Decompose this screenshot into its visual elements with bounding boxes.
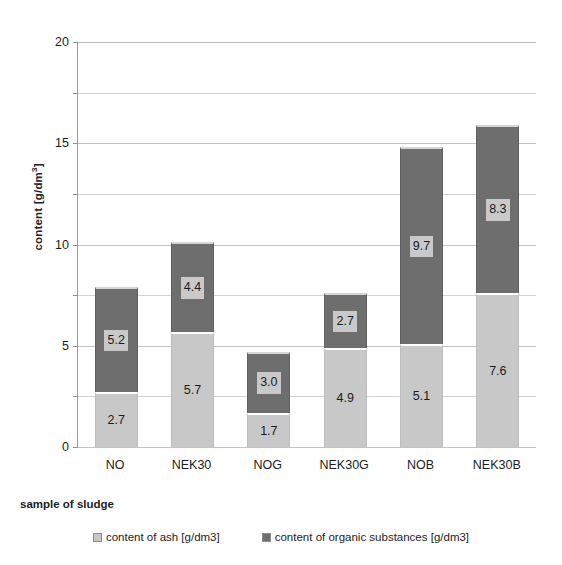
bar-value-label-ash-nob: 5.1: [413, 390, 430, 403]
chart-legend: content of ash [g/dm3]content of organic…: [0, 531, 562, 543]
bar-segment-organic-nob[interactable]: 9.7: [400, 147, 443, 343]
x-axis-title: sample of sludge: [20, 498, 114, 510]
bar-value-label-organic-nob: 9.7: [410, 236, 433, 258]
y-tick-label-0: 0: [62, 440, 69, 454]
y-tick-label-15: 15: [55, 136, 69, 150]
bar-value-label-ash-nog: 1.7: [260, 425, 277, 438]
bar-group-nek30[interactable]: 5.74.4: [171, 42, 214, 447]
bar-value-label-ash-nek30: 5.7: [184, 384, 201, 397]
y-axis-title-exponent: 3: [30, 167, 39, 172]
y-axis-title-bracket: ]: [32, 163, 44, 167]
bar-value-label-ash-nek30g: 4.9: [336, 392, 353, 405]
bar-group-nob[interactable]: 5.19.7: [400, 42, 443, 447]
legend-swatch-icon-ash: [93, 533, 102, 542]
bar-value-label-ash-no: 2.7: [107, 414, 124, 427]
bar-value-label-organic-nog: 3.0: [257, 372, 280, 394]
legend-label-ash: content of ash [g/dm3]: [106, 531, 220, 543]
plot-area: 05101520 2.75.25.74.41.73.04.92.75.19.77…: [77, 42, 536, 448]
y-tick-label-10: 10: [55, 238, 69, 252]
legend-item-organic[interactable]: content of organic substances [g/dm3]: [262, 531, 469, 543]
bar-segment-organic-no[interactable]: 5.2: [95, 287, 138, 392]
bar-segment-ash-no[interactable]: 2.7: [95, 392, 138, 447]
bar-value-label-organic-nek30: 4.4: [181, 277, 204, 299]
bar-value-label-ash-nek30b: 7.6: [489, 365, 506, 378]
bar-segment-ash-nek30g[interactable]: 4.9: [324, 348, 367, 447]
legend-label-organic: content of organic substances [g/dm3]: [275, 531, 469, 543]
x-tick-label-nek30b: NEK30B: [447, 458, 547, 472]
y-tick-label-20: 20: [55, 35, 69, 49]
bar-value-label-organic-nek30g: 2.7: [333, 311, 356, 333]
y-axis-title: content [g/dm3]: [30, 107, 44, 307]
bars-layer: 2.75.25.74.41.73.04.92.75.19.77.68.3: [78, 42, 536, 447]
y-tick-label-5: 5: [62, 339, 69, 353]
bar-group-nek30g[interactable]: 4.92.7: [324, 42, 367, 447]
bar-segment-ash-nob[interactable]: 5.1: [400, 344, 443, 447]
bar-group-nog[interactable]: 1.73.0: [247, 42, 290, 447]
bar-value-label-organic-nek30b: 8.3: [486, 199, 509, 221]
bar-segment-ash-nek30[interactable]: 5.7: [171, 332, 214, 447]
y-axis-title-text: content [g/dm: [32, 172, 44, 251]
bar-group-nek30b[interactable]: 7.68.3: [476, 42, 519, 447]
y-tick-mark-0: [73, 447, 78, 448]
legend-swatch-icon-organic: [262, 533, 271, 542]
bar-value-label-organic-no: 5.2: [104, 330, 127, 352]
bar-segment-organic-nek30g[interactable]: 2.7: [324, 293, 367, 348]
bar-segment-ash-nog[interactable]: 1.7: [247, 413, 290, 447]
bar-segment-ash-nek30b[interactable]: 7.6: [476, 293, 519, 447]
bar-group-no[interactable]: 2.75.2: [95, 42, 138, 447]
legend-item-ash[interactable]: content of ash [g/dm3]: [93, 531, 220, 543]
bar-segment-organic-nek30[interactable]: 4.4: [171, 242, 214, 331]
bar-segment-organic-nog[interactable]: 3.0: [247, 352, 290, 413]
gridline-0: [78, 447, 536, 448]
bar-segment-organic-nek30b[interactable]: 8.3: [476, 125, 519, 293]
stacked-bar-chart: content [g/dm3] 05101520 2.75.25.74.41.7…: [0, 0, 562, 565]
